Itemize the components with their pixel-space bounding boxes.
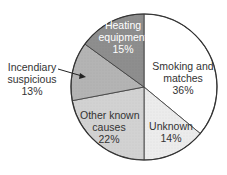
label-value: 15% (96, 43, 150, 55)
label-incendiary: Incendiary suspicious 13% (3, 61, 61, 97)
label-heating: Heating equipment 15% (96, 19, 150, 55)
label-value: 14% (146, 132, 196, 144)
label-text: equipment (96, 31, 150, 43)
label-value: 36% (150, 84, 216, 96)
label-unknown: Unknown 14% (146, 120, 196, 144)
label-text: Incendiary (3, 61, 61, 73)
label-smoking: Smoking and matches 36% (150, 60, 216, 96)
label-value: 22% (80, 133, 138, 145)
label-other: Other known causes 22% (80, 109, 138, 145)
label-text: Heating (96, 19, 150, 31)
label-text: matches (150, 72, 216, 84)
label-text: Unknown (146, 120, 196, 132)
label-text: causes (80, 121, 138, 133)
label-text: suspicious (3, 73, 61, 85)
label-text: Other known (80, 109, 138, 121)
label-text: Smoking and (150, 60, 216, 72)
label-value: 13% (3, 85, 61, 97)
